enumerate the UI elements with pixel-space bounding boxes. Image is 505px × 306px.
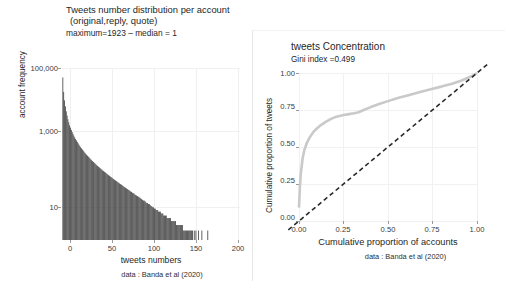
histogram-caption: data : Banda et al (2020) [62, 270, 262, 279]
concentration-xtick-dash-3 [432, 221, 433, 224]
histogram-ytick-10: 10 [12, 203, 58, 212]
concentration-xtick-0-25: 0.25 [328, 225, 358, 234]
histogram-xtick-50: 50 [97, 244, 127, 253]
histogram-xtick-200: 200 [223, 244, 253, 253]
histogram-xtick-dash-4 [238, 240, 239, 243]
histogram-ytick-dash-1 [58, 131, 61, 132]
concentration-xtick-dash-1 [343, 221, 344, 224]
concentration-panel: tweets Concentration Gini index =0.499 1… [252, 30, 505, 281]
concentration-xtick-1-00: 1.00 [462, 225, 492, 234]
concentration-xtick-0-00: 0.00 [284, 225, 314, 234]
concentration-x-axis-label: Cumulative proportion of accounts [283, 237, 493, 247]
concentration-title: tweets Concentration [291, 41, 501, 53]
histogram-x-axis-label: tweets numbers [62, 255, 240, 265]
histogram-ytick-dash-0 [58, 68, 61, 69]
concentration-title-block: tweets Concentration Gini index =0.499 [291, 41, 501, 65]
histogram-plot-area [62, 68, 240, 240]
concentration-xtick-dash-0 [299, 221, 300, 224]
concentration-xtick-dash-4 [477, 221, 478, 224]
concentration-y-axis-label: Cumulative proportion of tweets [265, 98, 274, 213]
concentration-xtick-0-75: 0.75 [417, 225, 447, 234]
concentration-xtick-dash-2 [388, 221, 389, 224]
lorenz-curve-graphic [289, 63, 487, 231]
histogram-bars [62, 68, 240, 240]
histogram-title-line2: (original,reply, quote) [66, 15, 262, 26]
concentration-xtick-0-50: 0.50 [373, 225, 403, 234]
concentration-caption: data : Banda et al (2020) [313, 252, 498, 261]
histogram-xtick-100: 100 [139, 244, 169, 253]
histogram-xtick-dash-1 [112, 240, 113, 243]
concentration-plot-area [299, 73, 477, 221]
histogram-xtick-dash-0 [70, 240, 71, 243]
histogram-title-block: Tweets number distribution per account (… [66, 4, 262, 39]
histogram-ytick-1000: 1,000 [12, 127, 58, 136]
histogram-xtick-dash-2 [154, 240, 155, 243]
histogram-xtick-dash-3 [196, 240, 197, 243]
histogram-title-line1: Tweets number distribution per account [66, 4, 262, 15]
histogram-ytick-dash-2 [58, 207, 61, 208]
histogram-y-axis-label: account frequency [18, 51, 27, 118]
histogram-xtick-150: 150 [181, 244, 211, 253]
histogram-subtitle: maximum=1923 – median = 1 [66, 28, 262, 39]
histogram-panel: Tweets number distribution per account (… [0, 0, 264, 306]
histogram-xtick-0: 0 [55, 244, 85, 253]
